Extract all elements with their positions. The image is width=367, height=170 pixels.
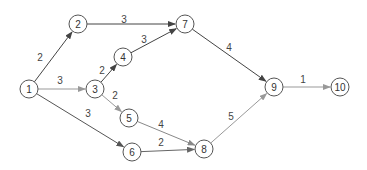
edge-weight-label: 3 — [121, 14, 127, 25]
edge-2-7: 3 — [87, 14, 175, 25]
edge-weight-label: 5 — [228, 111, 234, 122]
node-label: 4 — [120, 52, 126, 63]
node-8: 8 — [195, 140, 213, 158]
edge-arrow-line — [211, 94, 267, 143]
edge-weight-label: 3 — [57, 75, 63, 86]
edge-3-4: 2 — [99, 65, 116, 83]
edge-weight-label: 2 — [99, 65, 105, 76]
edge-4-7: 3 — [131, 29, 176, 53]
edge-weight-label: 3 — [85, 108, 91, 119]
node-2: 2 — [69, 15, 87, 33]
node-label: 7 — [182, 19, 188, 30]
edge-weight-label: 2 — [158, 137, 164, 148]
edge-weight-label: 4 — [158, 119, 164, 130]
network-diagram: 233322342451 12345678910 — [0, 0, 367, 170]
node-label: 8 — [201, 144, 207, 155]
node-5: 5 — [120, 109, 138, 127]
edge-3-5: 2 — [102, 90, 122, 112]
edge-7-9: 4 — [192, 29, 265, 81]
edge-weight-label: 4 — [226, 42, 232, 53]
node-9: 9 — [265, 78, 283, 96]
node-label: 10 — [334, 82, 346, 93]
node-7: 7 — [176, 15, 194, 33]
node-label: 1 — [26, 84, 32, 95]
edge-9-10: 1 — [283, 74, 330, 88]
node-label: 3 — [92, 84, 98, 95]
edge-8-9: 5 — [211, 94, 267, 143]
edge-1-2: 2 — [34, 32, 72, 82]
node-label: 9 — [271, 82, 277, 93]
node-4: 4 — [114, 48, 132, 66]
node-label: 2 — [75, 19, 81, 30]
nodes-layer: 12345678910 — [20, 15, 349, 161]
node-1: 1 — [20, 80, 38, 98]
edge-weight-label: 2 — [37, 52, 43, 63]
edge-1-3: 3 — [38, 75, 85, 90]
node-6: 6 — [123, 143, 141, 161]
edges-layer: 233322342451 — [34, 14, 330, 152]
node-3: 3 — [86, 80, 104, 98]
edge-weight-label: 3 — [141, 34, 147, 45]
edge-arrow-line — [131, 29, 176, 53]
node-label: 6 — [129, 147, 135, 158]
edge-weight-label: 2 — [112, 90, 118, 101]
edge-5-8: 4 — [137, 119, 194, 146]
node-label: 5 — [126, 113, 132, 124]
edge-arrow-line — [137, 121, 194, 145]
node-10: 10 — [331, 78, 349, 96]
edge-weight-label: 1 — [300, 74, 306, 85]
edge-arrow-line — [141, 149, 194, 151]
edge-arrow-line — [192, 29, 265, 81]
edge-6-8: 2 — [141, 137, 194, 152]
